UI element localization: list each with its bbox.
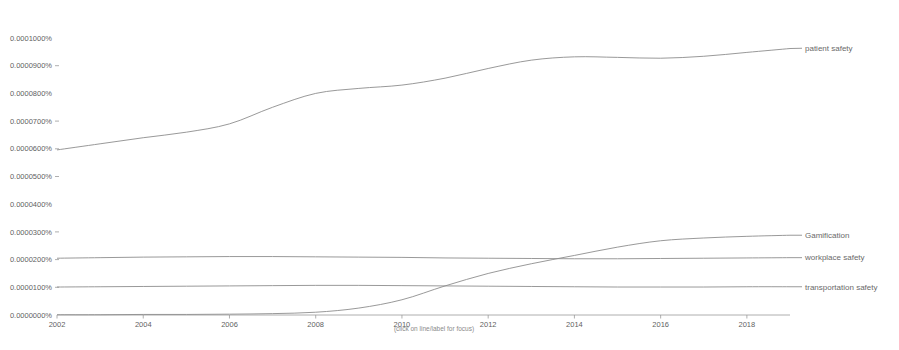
series-line-patient-safety[interactable] [57, 49, 790, 150]
y-tick-label: 0.0000600% [10, 144, 52, 153]
series-label-gamification[interactable]: Gamification [805, 231, 849, 240]
y-tick-label: 0.0000000% [10, 311, 52, 320]
series-labels[interactable]: patient safetyGamificationworkplace safe… [790, 44, 877, 291]
y-tick-label: 0.0000400% [10, 200, 52, 209]
y-tick-label: 0.0000700% [10, 117, 52, 126]
series-line-gamification[interactable] [57, 235, 790, 315]
x-tick-label: 2004 [135, 320, 152, 329]
focus-hint-label: (click on line/label for focus) [394, 325, 474, 333]
x-tick-label: 2016 [652, 320, 669, 329]
x-tick-label: 2006 [221, 320, 238, 329]
x-tick-label: 2014 [566, 320, 583, 329]
ngram-chart: 0.0001000%0.0000900%0.0000800%0.0000700%… [0, 0, 899, 350]
y-axis-ticks: 0.0001000%0.0000900%0.0000800%0.0000700%… [10, 34, 59, 320]
y-tick-label: 0.0000500% [10, 172, 52, 181]
x-tick-label: 2012 [480, 320, 497, 329]
y-tick-label: 0.0000200% [10, 255, 52, 264]
x-tick-label: 2018 [739, 320, 756, 329]
y-tick-label: 0.0000800% [10, 89, 52, 98]
y-tick-label: 0.0001000% [10, 34, 52, 43]
y-tick-label: 0.0000100% [10, 283, 52, 292]
x-tick-label: 2008 [307, 320, 324, 329]
series-line-transportation-safety[interactable] [57, 285, 790, 287]
series-label-workplace-safety[interactable]: workplace safety [804, 253, 865, 262]
series-label-patient-safety[interactable]: patient safety [805, 44, 853, 53]
series-line-workplace-safety[interactable] [57, 257, 790, 259]
x-tick-label: 2002 [49, 320, 66, 329]
y-tick-label: 0.0000900% [10, 61, 52, 70]
y-tick-label: 0.0000300% [10, 228, 52, 237]
series-lines[interactable] [57, 49, 790, 315]
chart-plot-area[interactable]: 0.0001000%0.0000900%0.0000800%0.0000700%… [0, 0, 899, 350]
series-label-transportation-safety[interactable]: transportation safety [805, 283, 877, 292]
